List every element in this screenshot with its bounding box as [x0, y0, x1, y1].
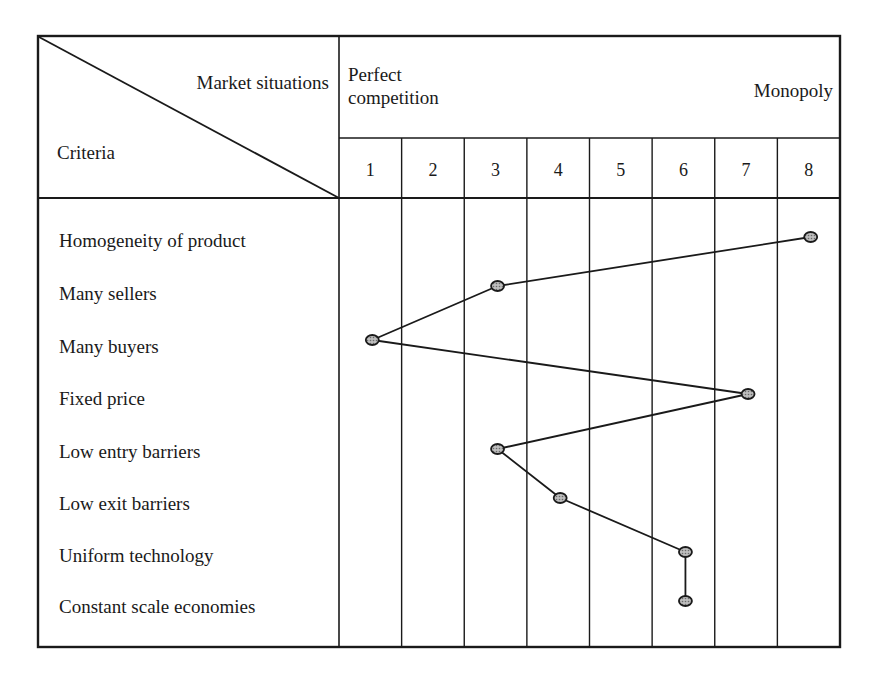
- profile-marker-dot: [679, 547, 692, 557]
- profile-line: [372, 237, 810, 601]
- profile-marker-dot: [742, 389, 755, 399]
- column-gridlines: [402, 138, 778, 647]
- profile-marker-dot: [491, 444, 504, 454]
- profile-marker-dot: [804, 232, 817, 242]
- column-number: 8: [804, 160, 813, 180]
- criterion-label: Low exit barriers: [59, 493, 190, 514]
- criterion-label: Many sellers: [59, 283, 157, 304]
- criterion-label: Many buyers: [59, 336, 159, 357]
- corner-top-label: Market situations: [197, 72, 329, 93]
- criterion-label: Fixed price: [59, 388, 145, 409]
- corner-diagonal: [39, 37, 339, 198]
- column-number: 1: [366, 160, 375, 180]
- column-number: 5: [616, 160, 625, 180]
- column-number: 6: [679, 160, 688, 180]
- criterion-label: Low entry barriers: [59, 441, 200, 462]
- profile-marker-dot: [679, 596, 692, 606]
- column-number: 3: [491, 160, 500, 180]
- criterion-label: Uniform technology: [59, 545, 214, 566]
- market-situation-profile-diagram: Market situations Criteria Perfect compe…: [0, 0, 869, 678]
- criteria-labels: Homogeneity of productMany sellersMany b…: [59, 230, 255, 617]
- spectrum-left-label-line1: Perfect: [348, 64, 403, 85]
- corner-bottom-label: Criteria: [57, 142, 116, 163]
- column-number: 2: [428, 160, 437, 180]
- profile-marker-dot: [491, 281, 504, 291]
- profile-marker-dot: [554, 493, 567, 503]
- spectrum-right-label: Monopoly: [754, 80, 834, 101]
- column-number: 7: [742, 160, 751, 180]
- profile-marker-dot: [366, 335, 379, 345]
- criterion-label: Homogeneity of product: [59, 230, 247, 251]
- profile-markers: [366, 232, 817, 606]
- criterion-label: Constant scale economies: [59, 596, 255, 617]
- cropped-caption-text: [0, 664, 869, 678]
- column-number: 4: [554, 160, 563, 180]
- spectrum-left-label-line2: competition: [348, 87, 439, 108]
